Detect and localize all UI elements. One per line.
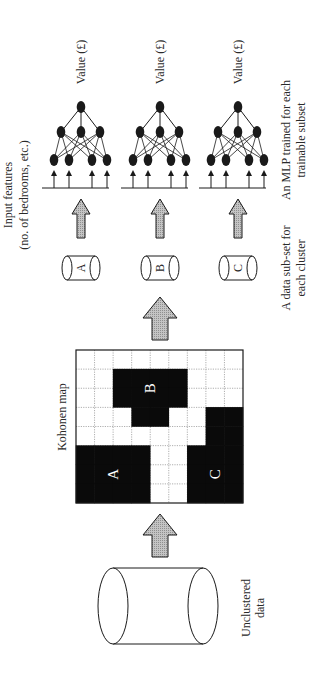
neuron-node [129, 154, 138, 166]
cluster-cell-c [206, 445, 225, 465]
mlp-b: Value (£) [121, 40, 190, 188]
neuron-node [50, 154, 59, 166]
kohonen-map: ABC [76, 350, 244, 503]
cluster-cell-b [113, 388, 132, 408]
cluster-cell-c [224, 407, 243, 427]
neuron-node [234, 101, 243, 113]
mlp-output-label: Value (£) [231, 40, 245, 84]
cluster-cell-c [187, 484, 206, 504]
up-arrow-icon [151, 199, 169, 238]
subset-caption-line1: A data sub-set for [279, 226, 293, 311]
input-arrow-icon [223, 170, 229, 176]
neuron-node [156, 101, 165, 113]
unclustered-line1: Unclustered [239, 579, 253, 637]
mlp-caption: An MLP trained for each trainable subset [279, 80, 308, 200]
neuron-node [260, 154, 269, 166]
cluster-label-a: A [105, 469, 121, 480]
cluster-cell-a [76, 464, 95, 484]
neuron-node [222, 154, 231, 166]
cluster-cell-a [94, 484, 113, 504]
input-arrow-icon [104, 170, 110, 176]
input-arrow-icon [89, 170, 95, 176]
mlp-output-label: Value (£) [153, 40, 167, 84]
neuron-node [77, 126, 86, 138]
kohonen-map-label: Kohonen map [55, 383, 69, 451]
subset-cylinder-a: A [62, 256, 100, 280]
mlp-a: Value (£) [42, 40, 111, 188]
cluster-cell-b [168, 369, 187, 389]
neuron-node [96, 126, 105, 138]
input-arrow-icon [246, 170, 252, 176]
input-features-label: Input features (no. of bedrooms, etc.) [1, 140, 31, 249]
cluster-cell-c [187, 445, 206, 465]
input-arrow-icon [183, 170, 189, 176]
neuron-node [214, 126, 223, 138]
input-arrow-icon [66, 170, 72, 176]
neuron-node [144, 154, 153, 166]
map-to-subsets-arrow [143, 297, 177, 340]
cluster-cell-c [224, 445, 243, 465]
cluster-cell-b [168, 388, 187, 408]
cluster-cell-b [150, 407, 169, 427]
up-arrow-icon [229, 199, 247, 238]
data-to-map-arrow [143, 514, 177, 557]
cluster-subsets: ABC [62, 256, 257, 280]
cluster-cell-c [187, 464, 206, 484]
cluster-cell-a [76, 445, 95, 465]
unclustered-data-cylinder [98, 568, 218, 644]
cluster-label-b: B [142, 383, 158, 393]
input-features-line2: (no. of bedrooms, etc.) [17, 140, 31, 249]
subset-label: C [231, 264, 245, 272]
neuron-node [207, 154, 216, 166]
subset-label: B [153, 264, 167, 272]
neuron-node [77, 101, 86, 113]
mlp-caption-line1: An MLP trained for each [279, 80, 293, 200]
cluster-cell-c [206, 426, 225, 446]
input-arrow-icon [145, 170, 151, 176]
input-arrow-icon [51, 170, 57, 176]
input-arrow-icon [208, 170, 214, 176]
neuron-node [175, 126, 184, 138]
input-features-line1: Input features [1, 162, 15, 229]
neuron-node [167, 154, 176, 166]
neuron-node [245, 154, 254, 166]
mlp-networks: Value (£)Value (£)Value (£) [42, 40, 268, 188]
input-arrow-icon [168, 170, 174, 176]
cluster-cell-c [224, 464, 243, 484]
cluster-cell-a [131, 445, 150, 465]
cluster-cell-b [113, 369, 132, 389]
subset-to-mlp-arrows [72, 199, 247, 238]
up-arrow-icon [72, 199, 90, 238]
input-arrow-icon [261, 170, 267, 176]
neuron-node [88, 154, 97, 166]
cluster-label-c: C [207, 469, 223, 479]
subset-cylinder-b: B [141, 256, 179, 280]
cluster-cell-a [131, 484, 150, 504]
neuron-node [253, 126, 262, 138]
subset-label: A [74, 263, 88, 272]
unclustered-line2: data [253, 597, 267, 618]
cluster-cell-a [113, 484, 132, 504]
mlp-output-label: Value (£) [74, 40, 88, 84]
diagram-canvas: Input features (no. of bedrooms, etc.) V… [0, 0, 321, 686]
cluster-cell-b [131, 407, 150, 427]
cluster-cell-c [206, 484, 225, 504]
neuron-node [136, 126, 145, 138]
neuron-node [156, 126, 165, 138]
subset-cylinder-c: C [219, 256, 257, 280]
cluster-cell-c [206, 407, 225, 427]
neuron-node [182, 154, 191, 166]
input-arrow-icon [130, 170, 136, 176]
cluster-cell-a [131, 464, 150, 484]
cluster-cell-c [224, 484, 243, 504]
mlp-caption-line2: trainable subset [294, 102, 308, 178]
cluster-cell-c [224, 426, 243, 446]
neuron-node [57, 126, 66, 138]
cluster-cell-a [94, 445, 113, 465]
neuron-node [103, 154, 112, 166]
cluster-cell-a [113, 445, 132, 465]
subset-caption-line2: each cluster [294, 240, 308, 297]
neuron-node [65, 154, 74, 166]
cluster-cell-a [76, 484, 95, 504]
neuron-node [234, 126, 243, 138]
